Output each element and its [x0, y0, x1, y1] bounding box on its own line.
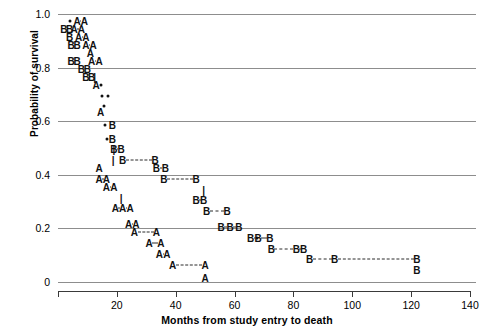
survival-chart: Probability of survival 00.20.40.60.81.0… — [0, 0, 494, 333]
censored-marker — [68, 19, 71, 22]
data-marker-b: B — [413, 265, 420, 274]
step-drop-tick: | — [112, 156, 115, 165]
data-marker-b: B — [218, 223, 225, 232]
x-tick-label: 40 — [156, 299, 196, 311]
step-segment-horizontal — [176, 264, 202, 265]
data-marker-a: A — [169, 260, 176, 269]
censored-marker — [107, 94, 110, 97]
data-marker-b: B — [73, 40, 80, 49]
x-tick — [470, 291, 471, 297]
x-tick — [58, 291, 59, 297]
data-marker-b: B — [331, 255, 338, 264]
x-tick — [117, 291, 118, 297]
gridline — [58, 68, 476, 69]
data-marker-a: A — [153, 228, 160, 237]
data-marker-a: A — [119, 204, 126, 213]
data-marker-b: B — [109, 134, 116, 143]
gridline — [58, 282, 476, 283]
x-tick — [352, 291, 353, 297]
censored-marker — [102, 105, 105, 108]
step-segment-horizontal — [210, 210, 225, 211]
data-marker-a: A — [201, 260, 208, 269]
y-tick-label: 0.8 — [14, 63, 50, 73]
gridline — [58, 228, 476, 229]
step-segment-horizontal — [313, 259, 332, 260]
data-marker-a: A — [103, 182, 110, 191]
data-marker-b: B — [200, 196, 207, 205]
x-tick-label: 20 — [97, 299, 137, 311]
x-tick — [235, 291, 236, 297]
data-marker-a: A — [126, 204, 133, 213]
x-tick-label: 120 — [391, 299, 431, 311]
data-marker-a: A — [110, 182, 117, 191]
x-tick — [411, 291, 412, 297]
x-tick-label: 80 — [273, 299, 313, 311]
step-segment-horizontal — [126, 160, 152, 161]
y-tick-label: 0.2 — [14, 223, 50, 233]
step-drop-tick: | — [202, 185, 205, 194]
data-marker-b: B — [118, 145, 125, 154]
step-segment-horizontal — [138, 232, 154, 233]
step-segment-horizontal — [167, 178, 193, 179]
gridline — [58, 121, 476, 122]
step-drop-tick: | — [93, 72, 96, 81]
data-marker-b: B — [193, 196, 200, 205]
y-tick-label: 0.6 — [14, 116, 50, 126]
data-marker-b: B — [162, 164, 169, 173]
plot-area: AAAAAAAAAAAAAAAAAAAAAAAAAAAAAAAABBBBBBBB… — [58, 14, 476, 282]
x-tick — [293, 291, 294, 297]
x-tick-label: 100 — [332, 299, 372, 311]
step-segment-horizontal — [338, 259, 414, 260]
data-marker-b: B — [226, 223, 233, 232]
step-segment-horizontal — [274, 248, 293, 249]
data-marker-b: B — [293, 244, 300, 253]
gridline — [58, 175, 476, 176]
data-marker-b: B — [268, 244, 275, 253]
data-marker-b: B — [300, 244, 307, 253]
censored-marker — [105, 137, 108, 140]
data-marker-a: A — [95, 56, 102, 65]
data-marker-b: B — [203, 206, 210, 215]
y-tick-label: 1.0 — [14, 9, 50, 19]
data-marker-a: A — [95, 164, 102, 173]
x-tick — [176, 291, 177, 297]
data-marker-a: A — [146, 239, 153, 248]
x-tick-label: 60 — [215, 299, 255, 311]
data-marker-b: B — [247, 233, 254, 242]
data-marker-a: A — [95, 174, 102, 183]
y-axis-title: Probability of survival — [29, 14, 40, 154]
data-marker-b: B — [160, 174, 167, 183]
x-axis-line — [58, 291, 470, 292]
step-drop-tick: | — [112, 145, 115, 154]
y-tick-label: 0.4 — [14, 170, 50, 180]
censored-marker — [104, 124, 107, 127]
data-marker-a: A — [112, 204, 119, 213]
x-axis-title: Months from study entry to death — [0, 314, 494, 326]
step-drop-tick: | — [120, 193, 123, 202]
data-marker-a: A — [131, 228, 138, 237]
censored-marker — [99, 84, 102, 87]
data-marker-b: B — [223, 206, 230, 215]
data-marker-a: A — [157, 239, 164, 248]
data-marker-a: A — [163, 249, 170, 258]
data-marker-b: B — [413, 255, 420, 264]
data-marker-b: B — [193, 174, 200, 183]
gridline — [58, 14, 476, 15]
data-marker-b: B — [119, 156, 126, 165]
y-tick-label: 0 — [14, 277, 50, 287]
x-tick-label: 140 — [450, 299, 490, 311]
data-marker-b: B — [266, 233, 273, 242]
data-marker-b: B — [109, 121, 116, 130]
data-marker-a: A — [97, 107, 104, 116]
data-marker-b: B — [153, 164, 160, 173]
data-marker-b: B — [306, 255, 313, 264]
data-marker-b: B — [235, 223, 242, 232]
censored-marker — [101, 94, 104, 97]
data-marker-a: A — [201, 273, 208, 282]
censored-marker — [255, 236, 258, 239]
data-marker-a: A — [156, 249, 163, 258]
